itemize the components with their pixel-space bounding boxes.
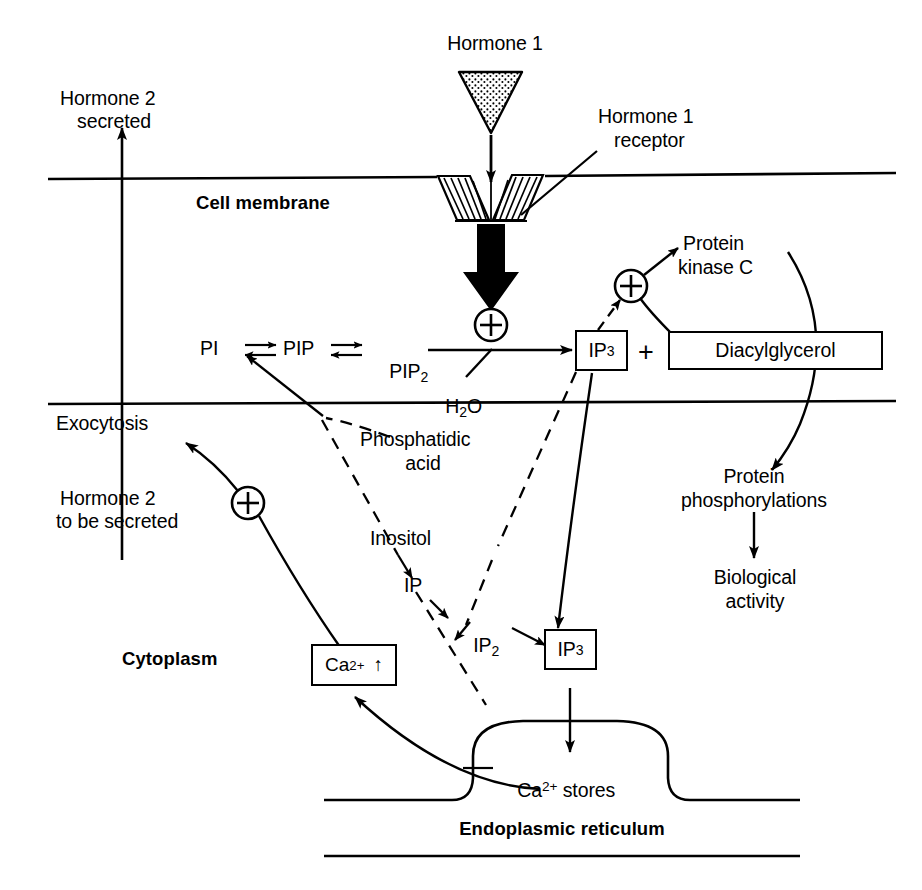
protein-kinase-c-line2: kinase C xyxy=(678,256,753,279)
hormone1-particle-icon xyxy=(459,72,522,133)
hormone1-receptor-label-line2: receptor xyxy=(614,129,685,152)
calcium-stores-base-text: Ca xyxy=(517,779,542,801)
ip3-transport-curve xyxy=(558,373,592,628)
ip3-membrane-subscript: 3 xyxy=(607,343,615,359)
ip2-label: IP2 xyxy=(452,611,499,682)
calcium-increase-box: Ca2+↑ xyxy=(311,644,397,686)
ip-label: IP xyxy=(404,574,422,597)
inositol-label: Inositol xyxy=(370,527,431,550)
protein-phosphorylations-line1: Protein xyxy=(664,465,844,488)
exocytosis-label: Exocytosis xyxy=(56,412,148,435)
cell-membrane-label: Cell membrane xyxy=(196,192,330,214)
pi-label: PI xyxy=(200,337,218,360)
calcium-stores-superscript: 2+ xyxy=(542,779,557,794)
hormone1-receptor-label-line1: Hormone 1 xyxy=(598,105,694,128)
calcium-stores-label: Ca2+ stores xyxy=(496,756,615,825)
ip2-subscript: 2 xyxy=(492,643,500,659)
water-subscript: 2 xyxy=(459,404,467,420)
protein-kinase-c-plus-icon xyxy=(615,270,647,302)
ip3-cytoplasm-base-text: IP xyxy=(557,638,575,661)
hormone2-to-be-secreted-line1: Hormone 2 xyxy=(60,487,156,510)
ip2-base-text: IP xyxy=(473,634,491,656)
ip3-membrane-base-text: IP xyxy=(588,339,606,362)
ip3-cytoplasm-subscript: 3 xyxy=(576,642,584,658)
calcium-to-exocytosis-curve-lower xyxy=(259,516,340,647)
calcium-superscript: 2+ xyxy=(349,658,364,673)
phosphatidic-acid-to-pi-dashed-arrow xyxy=(247,356,323,416)
calcium-stores-tail-text: stores xyxy=(557,779,615,801)
biological-activity-line2: activity xyxy=(684,590,826,613)
hormone1-label: Hormone 1 xyxy=(435,32,555,55)
water-base-text: H xyxy=(445,395,459,417)
phosphatidic-acid-line1: Phosphatidic xyxy=(360,428,470,451)
plus-to-protein-kinase-c-arrow xyxy=(644,248,678,275)
ip3-degradation-dashed-path xyxy=(466,372,576,625)
cytoplasm-label: Cytoplasm xyxy=(122,648,217,670)
pip2-base-text: PIP xyxy=(389,360,420,382)
hormone2-secreted-label-line2: secreted xyxy=(77,110,151,133)
calcium-up-arrow-icon: ↑ xyxy=(373,654,383,676)
ip3-membrane-box: IP3 xyxy=(575,330,628,371)
diacylglycerol-to-plus-curve xyxy=(640,298,672,334)
hormone2-to-be-secreted-line2: to be secreted xyxy=(56,510,178,533)
pip2-label: PIP2 xyxy=(368,337,428,408)
protein-kinase-c-line1: Protein xyxy=(683,232,744,255)
ip3-cytoplasm-box: IP3 xyxy=(544,629,597,670)
protein-phosphorylations-line2: phosphorylations xyxy=(654,489,854,512)
ip2-label-to-ip3-box-arrow xyxy=(512,628,545,645)
pathway-diagram-figure: IP3 horizontal line through plus --> xyxy=(0,0,922,890)
ip-arrowhead-segment xyxy=(430,600,448,618)
calcium-base-text: Ca xyxy=(325,654,349,676)
ip3-dag-plus-operator: + xyxy=(638,337,654,368)
endoplasmic-reticulum-label: Endoplasmic reticulum xyxy=(412,818,712,840)
exocytosis-activation-plus-icon xyxy=(232,487,264,519)
phospholipase-activation-plus-icon xyxy=(475,309,507,341)
signal-transduction-thick-arrow xyxy=(463,224,519,311)
calcium-to-exocytosis-curve-upper xyxy=(186,443,238,491)
diacylglycerol-box: Diacylglycerol xyxy=(668,331,883,370)
pip-label: PIP xyxy=(283,337,314,360)
ip3-to-plus-dashed-arrow xyxy=(598,300,620,330)
phosphatidic-acid-line2: acid xyxy=(360,452,486,475)
water-tail-text: O xyxy=(467,395,482,417)
biological-activity-line1: Biological xyxy=(684,566,826,589)
hormone2-secreted-label-line1: Hormone 2 xyxy=(60,87,156,110)
